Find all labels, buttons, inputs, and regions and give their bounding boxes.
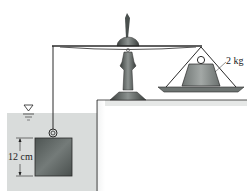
submerged-block [35,138,72,176]
block-height-label: 12 cm [8,151,33,162]
balance-stand [110,13,146,100]
counterweight-mass-label: 2 kg [226,55,244,66]
balance-diagram [0,0,247,196]
ledge [97,100,247,191]
